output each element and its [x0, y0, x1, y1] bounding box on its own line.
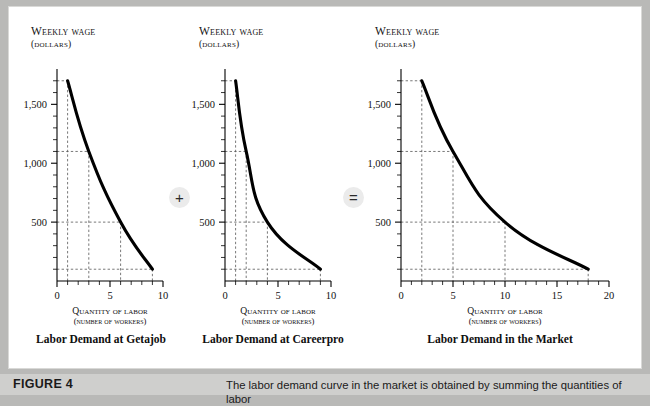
- x-axis-title-line1: Quantity of labor: [401, 305, 609, 316]
- figure-panel: Weekly wage (dollars) 5001,0001,5000510Q…: [9, 7, 641, 368]
- chart-title-market: Labor Demand in the Market: [361, 333, 639, 345]
- plot-area-getajob: 5001,0001,5000510Quantity of labor(numbe…: [57, 69, 163, 281]
- plot-svg: [401, 69, 635, 287]
- y-axis-title-line1: Weekly wage: [199, 25, 263, 37]
- plot-area-careerpro: 5001,0001,5000510Quantity of labor(numbe…: [225, 69, 331, 281]
- y-axis-title-line1: Weekly wage: [31, 25, 95, 37]
- x-axis-title-line2: (number of workers): [57, 316, 163, 326]
- figure-label: FIGURE 4: [13, 377, 73, 391]
- y-tick-label: 1,000: [351, 158, 391, 169]
- x-tick-label: 0: [54, 290, 59, 301]
- x-axis-title-line2: (number of workers): [225, 316, 331, 326]
- figure-caption: The labor demand curve in the market is …: [226, 378, 646, 406]
- chart-labor-demand-getajob: Weekly wage (dollars) 5001,0001,5000510Q…: [13, 7, 189, 368]
- x-tick-label: 5: [450, 290, 455, 301]
- y-tick-label: 1,000: [175, 158, 215, 169]
- x-axis-title-line1: Quantity of labor: [57, 305, 163, 316]
- y-tick-label: 500: [351, 217, 391, 228]
- x-axis-title-line2: (number of workers): [401, 316, 609, 326]
- equals-operator-icon: =: [343, 187, 364, 208]
- plus-operator-icon: +: [169, 187, 190, 208]
- x-tick-label: 5: [107, 290, 112, 301]
- y-axis-title-line1: Weekly wage: [375, 25, 439, 37]
- x-tick-label: 0: [398, 290, 403, 301]
- x-tick-label: 10: [158, 290, 169, 301]
- y-tick-label: 1,500: [175, 99, 215, 110]
- x-tick-label: 0: [222, 290, 227, 301]
- plot-svg: [57, 69, 189, 287]
- x-tick-label: 20: [604, 290, 615, 301]
- charts-row: Weekly wage (dollars) 5001,0001,5000510Q…: [9, 7, 641, 368]
- plot-area-market: 5001,0001,50005101520Quantity of labor(n…: [401, 69, 609, 281]
- chart-title-getajob: Labor Demand at Getajob: [13, 333, 189, 345]
- y-axis-title-line2: (dollars): [375, 39, 415, 49]
- y-axis-title-line2: (dollars): [31, 39, 71, 49]
- y-tick-label: 1,000: [7, 158, 47, 169]
- plot-svg: [225, 69, 357, 287]
- y-axis-title-line2: (dollars): [199, 39, 239, 49]
- equals-glyph: =: [349, 190, 358, 205]
- y-tick-label: 500: [175, 217, 215, 228]
- x-axis-title-line1: Quantity of labor: [225, 305, 331, 316]
- chart-title-careerpro: Labor Demand at Careerpro: [185, 333, 361, 345]
- demand-curve: [236, 81, 321, 269]
- x-tick-label: 15: [552, 290, 563, 301]
- x-tick-label: 10: [500, 290, 511, 301]
- y-tick-label: 1,500: [351, 99, 391, 110]
- y-tick-label: 500: [7, 217, 47, 228]
- x-tick-label: 5: [275, 290, 280, 301]
- x-tick-label: 10: [326, 290, 337, 301]
- chart-labor-demand-market: Weekly wage (dollars) 5001,0001,50005101…: [361, 7, 639, 368]
- demand-curve: [68, 81, 153, 269]
- plus-glyph: +: [175, 190, 184, 205]
- y-tick-label: 1,500: [7, 99, 47, 110]
- chart-labor-demand-careerpro: Weekly wage (dollars) 5001,0001,5000510Q…: [185, 7, 361, 368]
- guide-lines: [401, 81, 588, 281]
